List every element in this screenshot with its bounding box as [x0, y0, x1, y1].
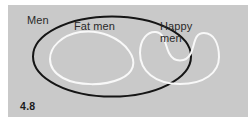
- label-men: Men: [27, 15, 49, 27]
- label-happy-men-line-1: Happy: [160, 20, 192, 32]
- diagram-panel: Men Fat men Happymen 4.8: [8, 5, 248, 117]
- label-happy-men-line-2: men: [160, 32, 182, 44]
- label-happy-men: Happymen: [160, 21, 192, 44]
- figure-number: 4.8: [20, 100, 36, 112]
- label-fat-men: Fat men: [74, 21, 115, 33]
- set-blob-fat-men: [50, 31, 133, 84]
- figure-root: Men Fat men Happymen 4.8: [0, 0, 250, 117]
